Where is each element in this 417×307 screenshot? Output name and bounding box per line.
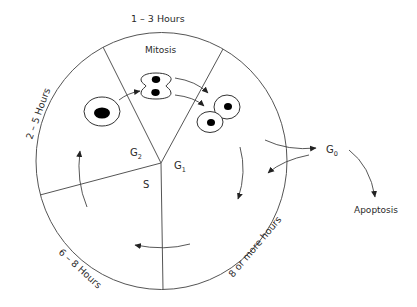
dividing-cell: [141, 73, 171, 99]
arrow-g1-progress: [238, 147, 243, 199]
label-s: S: [143, 179, 149, 190]
label-g0-sub: 0: [334, 150, 338, 158]
label-g0: G0: [326, 144, 338, 158]
dividing-cell-nucleus-bottom: [151, 89, 159, 96]
arrow-from-g0: [268, 155, 309, 173]
label-apoptosis: Apoptosis: [354, 205, 398, 215]
daughter-cell-2-nucleus: [207, 119, 215, 126]
label-g1-sub: 1: [182, 166, 186, 174]
arrow-parent-to-dividing: [119, 91, 140, 100]
label-g2: G2: [130, 147, 142, 161]
label-mitosis: Mitosis: [145, 45, 176, 55]
daughter-cell-2: [197, 112, 223, 133]
parent-cell-nucleus: [94, 108, 110, 119]
label-g1: G1: [174, 160, 186, 174]
cell-cycle-diagram: 1 – 3 Hours 2 – 5 Hours 6 – 8 Hours 8 or…: [0, 0, 417, 307]
duration-g2: 2 – 5 Hours: [24, 86, 53, 140]
label-g0-base: G: [326, 144, 334, 155]
divider-s-g1: [161, 163, 163, 290]
arrow-to-g0: [265, 140, 316, 149]
label-g2-base: G: [130, 147, 138, 158]
duration-s: 6 – 8 Hours: [57, 246, 104, 290]
arrow-dividing-lower: [175, 95, 204, 106]
label-g2-sub: 2: [138, 153, 142, 161]
dividing-cell-nucleus-top: [152, 76, 160, 83]
label-g1-base: G: [174, 160, 182, 171]
parent-cell: [84, 97, 120, 126]
duration-mitosis: 1 – 3 Hours: [131, 13, 185, 24]
daughter-cell-1-nucleus: [224, 103, 232, 110]
arrow-g2-progress: [79, 151, 87, 207]
duration-g1: 8 or more hours: [226, 214, 283, 279]
arrow-to-apoptosis: [349, 150, 375, 197]
